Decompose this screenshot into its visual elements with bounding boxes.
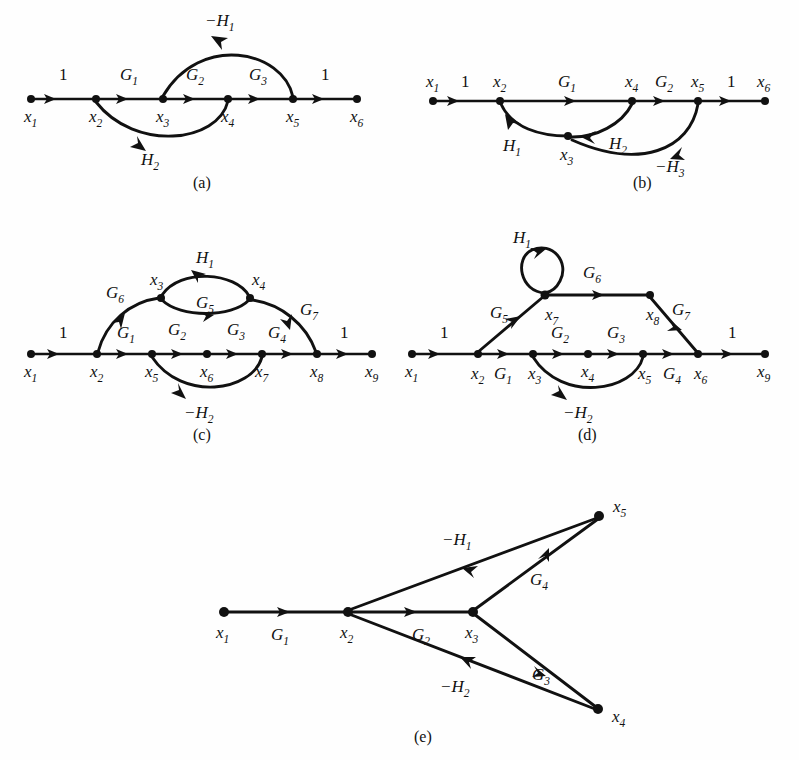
gain-label-c-H1: H1 — [195, 248, 214, 270]
node-a-x6 — [353, 95, 361, 103]
edge-a-x5-x3-feedback — [163, 55, 293, 97]
gain-label-d-G4: G4 — [663, 364, 681, 386]
node-c-x5 — [148, 350, 156, 358]
node-d-x2 — [474, 350, 482, 358]
subfigure-b: x1 x2 x3 x4 x5 x6 1 G1 G2 1 H1 H2 — [425, 72, 771, 192]
gain-label-c-G5: G5 — [196, 293, 214, 315]
node-a-x1 — [27, 95, 35, 103]
gain-label-d-G2: G2 — [551, 323, 569, 345]
node-label-d-x8: x8 — [645, 305, 660, 327]
node-label-e-x2: x2 — [339, 623, 354, 645]
node-c-x3 — [157, 294, 165, 302]
subfigure-c: x1 x2 x3 x4 x5 x6 x7 x8 x9 1 G1 G2 — [23, 248, 379, 444]
node-c-x9 — [368, 350, 376, 358]
gain-label-c-one-right: 1 — [340, 323, 349, 342]
gain-label-a-G3: G3 — [249, 65, 267, 87]
gain-label-a-H1: −H1 — [205, 11, 235, 33]
gain-label-c-G4: G4 — [268, 323, 286, 345]
gain-label-e-G4: G4 — [530, 570, 548, 592]
node-label-a-x1: x1 — [23, 107, 37, 129]
node-c-x2 — [93, 350, 101, 358]
node-e-x2 — [343, 607, 353, 617]
gain-label-a-G2: G2 — [186, 65, 204, 87]
node-label-e-x3: x3 — [464, 623, 479, 645]
gain-label-a-one-right: 1 — [321, 65, 330, 84]
gain-label-d-G3: G3 — [607, 323, 625, 345]
node-label-e-x1: x1 — [215, 623, 229, 645]
gain-label-d-H2: −H2 — [563, 403, 593, 425]
edge-b-x4-x3-feedback — [570, 104, 632, 137]
node-d-x5 — [639, 350, 647, 358]
edge-e-x3-x5 — [474, 519, 598, 610]
subfigure-e: x1 x2 x3 x4 x5 G1 G2 G3 G4 −H1 −H2 — [215, 497, 627, 746]
gain-label-b-G1: G1 — [558, 72, 576, 94]
node-label-c-x6: x6 — [199, 362, 214, 384]
subfigure-d: x1 x2 x3 x4 x5 x6 x7 x8 x9 1 G1 G2 — [404, 228, 771, 444]
node-b-x1 — [429, 97, 437, 105]
gain-label-d-G5: G5 — [490, 303, 508, 325]
edge-d-x2-x7 — [478, 297, 543, 352]
node-c-x1 — [27, 350, 35, 358]
node-label-c-x3: x3 — [149, 270, 164, 292]
gain-label-e-H2: −H2 — [440, 677, 470, 699]
node-label-a-x4: x4 — [220, 107, 235, 129]
node-label-b-x4: x4 — [624, 72, 639, 94]
node-label-a-x3: x3 — [155, 107, 170, 129]
node-d-x7 — [541, 291, 550, 300]
gain-label-b-H2: H2 — [608, 134, 627, 156]
gain-label-d-one-right: 1 — [728, 323, 737, 342]
node-label-d-x9: x9 — [756, 362, 771, 384]
arrowhead-c-H2 — [171, 383, 186, 399]
node-e-x3 — [468, 607, 478, 617]
node-label-b-x2: x2 — [492, 72, 507, 94]
arrowhead-a-H2 — [130, 136, 146, 151]
gain-label-e-G2: G2 — [412, 625, 430, 647]
node-label-a-x2: x2 — [88, 107, 103, 129]
node-b-x3 — [564, 132, 572, 140]
node-b-x2 — [496, 97, 504, 105]
gain-label-b-one-right: 1 — [727, 72, 736, 91]
caption-b: (b) — [633, 174, 652, 192]
node-label-b-x1: x1 — [425, 72, 439, 94]
arrowhead-d-H1 — [530, 248, 546, 259]
gain-label-c-one-left: 1 — [59, 323, 68, 342]
gain-label-c-G6: G6 — [106, 283, 124, 305]
node-label-c-x2: x2 — [89, 362, 104, 384]
node-b-x6 — [761, 97, 769, 105]
node-b-x4 — [628, 97, 636, 105]
node-label-a-x6: x6 — [349, 107, 364, 129]
gain-label-c-G1: G1 — [117, 323, 135, 345]
node-label-c-x8: x8 — [309, 362, 324, 384]
gain-label-b-G2: G2 — [655, 72, 673, 94]
node-label-b-x3: x3 — [559, 145, 574, 167]
caption-c: (c) — [193, 426, 211, 444]
edge-d-x7-selfloop — [522, 248, 563, 293]
node-label-c-x9: x9 — [364, 362, 379, 384]
node-a-x4 — [224, 95, 232, 103]
gain-label-e-G1: G1 — [271, 625, 289, 647]
caption-a: (a) — [193, 174, 211, 192]
node-d-x3 — [529, 350, 537, 358]
node-c-x4 — [246, 294, 254, 302]
figure-canvas: x1 x2 x3 x4 x5 x6 1 G1 G2 G3 1 −H1 — [0, 0, 799, 760]
node-c-x6 — [203, 350, 211, 358]
edge-b-x5-x3-feedback — [572, 104, 698, 154]
node-label-e-x4: x4 — [611, 707, 626, 729]
node-label-d-x5: x5 — [637, 364, 652, 386]
gain-label-d-H1: H1 — [512, 228, 531, 250]
gain-label-d-G6: G6 — [583, 263, 601, 285]
signal-flow-graph-figure: x1 x2 x3 x4 x5 x6 1 G1 G2 G3 1 −H1 — [0, 0, 799, 760]
arrowhead-b-H1 — [505, 114, 521, 130]
node-d-x6 — [694, 350, 702, 358]
gain-label-a-H2: H2 — [140, 150, 159, 172]
gain-label-c-G2: G2 — [168, 320, 186, 342]
node-c-x8 — [313, 350, 321, 358]
caption-e: (e) — [414, 728, 432, 746]
node-d-x4 — [584, 350, 592, 358]
edge-e-x3-x4 — [474, 614, 596, 707]
node-e-x1 — [219, 607, 229, 617]
node-d-x1 — [408, 350, 416, 358]
node-label-c-x4: x4 — [251, 270, 266, 292]
caption-d: (d) — [578, 426, 597, 444]
gain-label-a-G1: G1 — [120, 65, 138, 87]
